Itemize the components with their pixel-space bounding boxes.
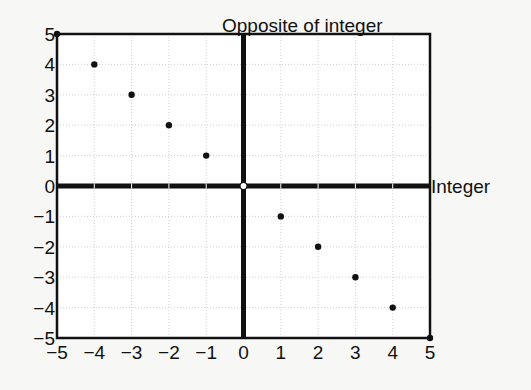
- y-tick-label: −4: [33, 298, 55, 319]
- x-tick-label: 4: [387, 342, 398, 363]
- data-point: [54, 31, 60, 37]
- data-point: [91, 61, 97, 67]
- data-point: [278, 213, 284, 219]
- x-tick-label: 1: [276, 342, 287, 363]
- x-tick-label: −4: [83, 342, 105, 363]
- y-tick-label: 0: [44, 176, 55, 197]
- data-point: [128, 92, 134, 98]
- chart-canvas: −5−4−3−2−1012345 543210−1−2−3−4−5 Opposi…: [0, 0, 531, 390]
- y-tick-label: 4: [44, 54, 55, 75]
- y-tick-label: −2: [33, 237, 55, 258]
- y-tick-label: 3: [44, 85, 55, 106]
- scatter-chart: −5−4−3−2−1012345 543210−1−2−3−4−5 Opposi…: [0, 0, 531, 390]
- x-tick-label: −1: [195, 342, 217, 363]
- x-tick-label: 5: [425, 342, 436, 363]
- data-point: [240, 183, 247, 190]
- y-tick-labels: 543210−1−2−3−4−5: [33, 24, 55, 349]
- y-tick-label: 1: [44, 146, 55, 167]
- x-tick-label: 0: [238, 342, 249, 363]
- y-tick-label: −1: [33, 206, 55, 227]
- y-tick-label: −5: [33, 328, 55, 349]
- data-point: [203, 152, 209, 158]
- x-tick-label: −2: [158, 342, 180, 363]
- x-axis-label: Integer: [431, 176, 491, 197]
- y-tick-label: −3: [33, 267, 55, 288]
- data-point: [315, 244, 321, 250]
- y-tick-label: 2: [44, 115, 55, 136]
- y-axis-label: Opposite of integer: [222, 15, 383, 36]
- data-point: [352, 274, 358, 280]
- x-tick-label: 2: [313, 342, 324, 363]
- y-tick-label: 5: [44, 24, 55, 45]
- data-point: [390, 304, 396, 310]
- data-point: [166, 122, 172, 128]
- x-tick-label: −3: [121, 342, 143, 363]
- x-tick-label: 3: [350, 342, 361, 363]
- data-point: [427, 335, 433, 341]
- x-tick-labels: −5−4−3−2−1012345: [46, 342, 435, 363]
